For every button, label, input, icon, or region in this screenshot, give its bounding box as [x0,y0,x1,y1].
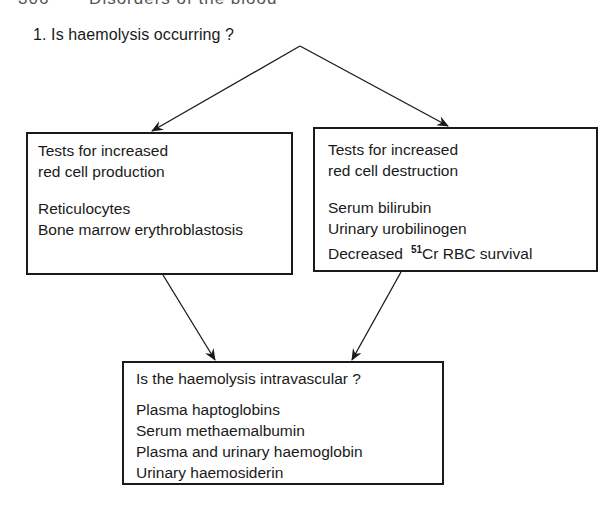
test-item: Reticulocytes [38,198,291,219]
page-header: 306 Disorders of the blood [18,0,277,9]
test-item: Plasma haptoglobins [136,399,442,420]
box-title-line: red cell production [38,161,291,182]
question-heading: 1. Is haemolysis occurring ? [33,26,234,44]
survival-prefix: Decreased [328,245,403,262]
box-title-line: red cell destruction [328,160,596,181]
box-title-line: Tests for increased [328,139,596,160]
arrow-production-to-intravascular [163,275,215,360]
test-item: Urinary haemosiderin [136,462,442,483]
test-item: Serum methaemalbumin [136,420,442,441]
intravascular-tests-box: Is the haemolysis intravascular ? Plasma… [122,361,444,485]
test-item: Bone marrow erythroblastosis [38,219,291,240]
box-title: Is the haemolysis intravascular ? [136,368,442,389]
box-title-line: Tests for increased [38,140,291,161]
running-title: Disorders of the blood [89,0,277,8]
destruction-tests-box: Tests for increased red cell destruction… [313,127,598,272]
arrow-destruction-to-intravascular [352,272,401,360]
arrow-to-destruction [300,46,448,126]
page-number: 306 [18,0,49,8]
test-item: Urinary urobilinogen [328,218,596,239]
production-tests-box: Tests for increased red cell production … [26,132,293,275]
test-item: Plasma and urinary haemoglobin [136,441,442,462]
test-item-survival: Decreased51Cr RBC survival [328,239,596,264]
test-item: Serum bilirubin [328,197,596,218]
arrow-to-production [152,46,300,131]
isotope-mass: 51 [411,244,422,255]
survival-suffix: Cr RBC survival [422,245,532,262]
